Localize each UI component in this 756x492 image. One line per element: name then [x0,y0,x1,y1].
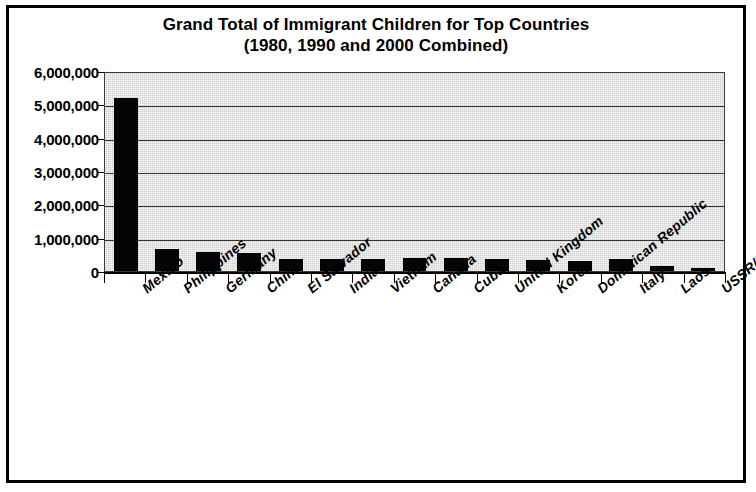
bar-slot [394,73,435,271]
y-axis-tick-label: 5,000,000 [34,97,99,114]
x-axis-category-labels: MexicoPhilippinesGermanyChinaEl Salvador… [104,284,725,474]
chart-title-line2: (1980, 1990 and 2000 Combined) [9,35,743,56]
plot-area [104,72,725,272]
y-axis-tick-mark [97,205,104,206]
x-axis-category-label: Philippines [180,284,190,296]
x-axis-category-label: Mexico [139,284,149,296]
bar-slot [600,73,641,271]
x-axis-category-label: Canada [429,284,439,296]
x-axis-category-label: India [346,284,356,296]
y-axis-tick-label: 1,000,000 [34,230,99,247]
x-axis-category-label: Italy [636,284,646,296]
bar-slot [311,73,352,271]
y-axis-tick-mark [97,272,104,273]
y-axis-tick-label: 6,000,000 [34,64,99,81]
bar-slot [188,73,229,271]
x-axis-category-label: Laos [677,284,687,296]
bar[interactable] [114,98,138,271]
y-axis-tick-mark [97,172,104,173]
y-axis-tick-mark [97,139,104,140]
x-axis-category-label: United Kingdom [511,284,521,296]
bar-slot [518,73,559,271]
bar-slot [270,73,311,271]
y-axis-tick-mark [97,105,104,106]
y-axis-tick-label: 3,000,000 [34,164,99,181]
bar-series [105,73,724,271]
chart-title: Grand Total of Immigrant Children for To… [9,14,743,56]
chart-title-line1: Grand Total of Immigrant Children for To… [163,15,590,34]
y-axis-tick-labels: 01,000,0002,000,0003,000,0004,000,0005,0… [21,72,99,272]
bar-slot [146,73,187,271]
bar-slot [476,73,517,271]
x-axis-category-label: Cuba [470,284,480,296]
y-axis-tick-mark [97,239,104,240]
x-axis-tick-mark [104,274,105,283]
x-axis-category-label: Vietnam [387,284,397,296]
x-axis-category-label: Korea [553,284,563,296]
y-axis-tick-label: 4,000,000 [34,130,99,147]
x-axis-category-label: El Salvador [304,284,314,296]
y-axis-tick-mark [97,72,104,73]
x-axis-category-label: Dominican Republic [594,284,604,296]
x-axis-category-label: China [263,284,273,296]
bar-slot [105,73,146,271]
bar-slot [435,73,476,271]
bar-slot [683,73,724,271]
x-axis-category-label: USSR/Russia [718,284,728,296]
x-axis-category-label: Germany [222,284,232,296]
chart-figure-frame: Grand Total of Immigrant Children for To… [6,5,746,483]
y-axis-tick-label: 2,000,000 [34,197,99,214]
